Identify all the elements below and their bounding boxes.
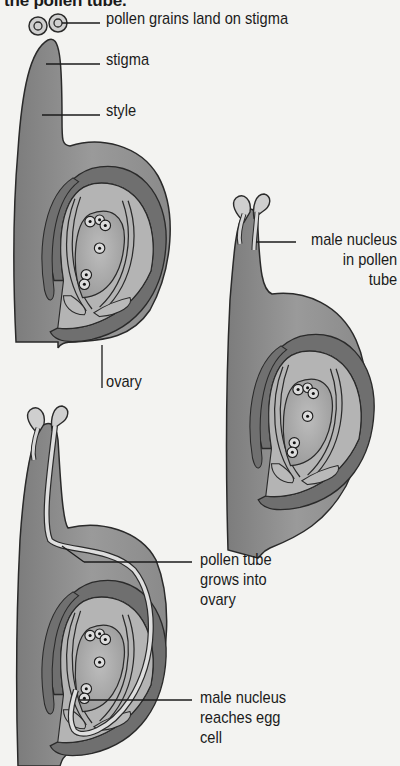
label-line: male nucleus (200, 688, 286, 708)
label-line: in pollen (311, 250, 397, 270)
label-line: ovary (200, 590, 272, 610)
label-pollen-grains: pollen grains land on stigma (106, 9, 288, 29)
label-line: tube (311, 270, 397, 290)
label-male-nucleus-in-pollen-tube: male nucleus in pollen tube (311, 230, 397, 290)
label-stigma: stigma (106, 50, 149, 70)
label-ovary: ovary (106, 372, 142, 392)
label-line: cell (200, 728, 286, 748)
stage-3-flower (17, 406, 192, 766)
label-line: pollen tube (200, 550, 272, 570)
label-male-nucleus-reaches-egg: male nucleus reaches egg cell (200, 688, 286, 748)
stage-1-flower (14, 14, 170, 388)
label-line: male nucleus (311, 230, 397, 250)
label-line: reaches egg (200, 708, 286, 728)
pollen-grains-icon (29, 14, 67, 35)
label-line: grows into (200, 570, 272, 590)
fertilisation-diagram (0, 0, 400, 766)
label-pollen-tube-grows: pollen tube grows into ovary (200, 550, 272, 610)
label-style: style (106, 101, 136, 121)
